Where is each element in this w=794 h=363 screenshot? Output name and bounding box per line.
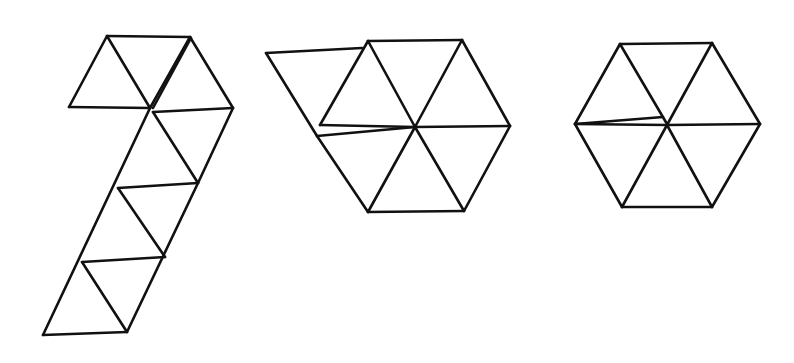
edge-line — [118, 183, 198, 188]
edge-line — [667, 43, 712, 125]
edge-line — [575, 124, 622, 207]
edge-line — [266, 48, 362, 53]
edge-line — [415, 126, 510, 127]
edge-line — [198, 108, 233, 183]
edge-line — [69, 36, 107, 107]
edge-line — [462, 40, 510, 126]
edge-line — [620, 44, 667, 124]
edge-line — [107, 36, 150, 108]
edge-line — [153, 112, 198, 183]
edge-line — [368, 211, 464, 212]
edge-line — [317, 127, 415, 136]
edge-line — [667, 125, 712, 207]
edge-line — [712, 124, 760, 207]
edge-line — [153, 38, 191, 108]
edge-line — [622, 125, 667, 207]
edge-line — [620, 43, 712, 44]
edge-line — [464, 126, 510, 211]
edge-line — [69, 107, 150, 108]
edge-line — [266, 53, 317, 136]
edge-line — [82, 257, 165, 262]
triangle-diagram-canvas — [0, 0, 794, 363]
figure-hexagon — [575, 43, 760, 207]
edge-line — [43, 332, 127, 335]
edge-line — [368, 40, 462, 41]
edge-line — [320, 125, 415, 127]
edge-line — [107, 36, 190, 37]
edge-line — [43, 108, 150, 335]
edge-line — [415, 40, 462, 127]
edge-line — [118, 188, 165, 257]
edge-line — [150, 37, 190, 108]
figure-hexagon-with-extra-triangle — [266, 40, 510, 212]
edge-line — [415, 127, 464, 211]
edge-line — [712, 43, 760, 124]
edge-line — [190, 37, 233, 108]
figure-strip-with-top-flap — [43, 36, 233, 335]
edge-line — [575, 117, 663, 124]
edge-line — [153, 108, 233, 112]
edge-line — [667, 124, 760, 125]
edge-line — [82, 262, 127, 332]
edge-line — [575, 44, 620, 124]
edge-line — [317, 136, 368, 212]
edge-line — [368, 41, 415, 127]
edge-line — [368, 127, 415, 212]
edge-line — [320, 41, 368, 125]
